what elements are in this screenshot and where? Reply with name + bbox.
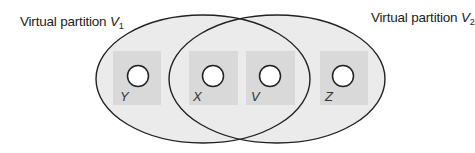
node-y-label: Y — [120, 89, 130, 104]
partition-v1-label-sub: 1 — [119, 21, 124, 31]
node-y-circle-icon — [128, 66, 149, 87]
partition-v2-label-sub: 2 — [470, 17, 475, 27]
node-v-circle-icon — [260, 66, 281, 87]
node-z-circle-icon — [333, 66, 354, 87]
partition-v2-label: Virtual partition V2 — [371, 10, 475, 27]
node-x-label: X — [192, 89, 203, 104]
partition-v1-label-var: V — [110, 14, 119, 29]
partition-v2-label-var: V — [461, 10, 470, 25]
partition-v2-label-prefix: Virtual partition — [371, 10, 461, 25]
node-z-label: Z — [324, 89, 334, 104]
node-x-circle-icon — [203, 66, 224, 87]
partition-v1-label: Virtual partition V1 — [20, 14, 124, 31]
partition-v1-label-prefix: Virtual partition — [20, 14, 110, 29]
node-v-label: V — [251, 89, 261, 104]
